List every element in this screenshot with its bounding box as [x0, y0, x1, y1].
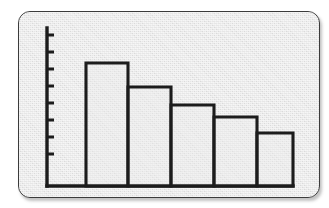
figure-root — [0, 0, 329, 208]
bar-5 — [257, 133, 293, 186]
bar-3 — [171, 105, 214, 186]
bar-1 — [86, 63, 128, 186]
bar-chart-plot — [19, 12, 320, 198]
chart-plate — [18, 11, 320, 198]
bar-4 — [214, 117, 257, 186]
bar-2 — [128, 87, 171, 186]
bar-group — [86, 63, 293, 186]
